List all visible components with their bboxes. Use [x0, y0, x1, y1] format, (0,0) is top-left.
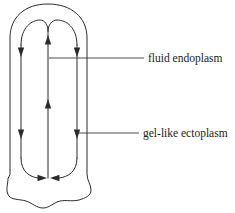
flow-arrowheads — [18, 35, 80, 181]
flow-arrow-left-down-lower-icon — [18, 130, 24, 139]
flow-bottom-right-arc — [59, 158, 77, 178]
flow-arrow-left-down-upper-icon — [18, 48, 24, 57]
label-fluid-endoplasm: fluid endoplasm — [148, 52, 222, 65]
flow-bottom-left-arc — [21, 158, 38, 178]
flow-arrow-right-down-lower-icon — [74, 130, 80, 139]
diagram-canvas: fluid endoplasm gel-like ectoplasm — [0, 0, 235, 213]
flow-arrow-center-up-middle-icon — [45, 99, 51, 108]
flow-arrow-bottom-right-inward-icon — [50, 175, 59, 181]
label-gel-like-ectoplasm: gel-like ectoplasm — [143, 127, 228, 140]
flow-arrow-center-up-upper-icon — [45, 35, 51, 44]
label-leaders — [49, 58, 144, 133]
flow-arrow-bottom-left-inward-icon — [38, 175, 47, 181]
flow-top-right-arc — [48, 20, 77, 45]
flow-top-left-arc — [21, 20, 48, 45]
flow-arrow-right-down-upper-icon — [74, 48, 80, 57]
cytoplasmic-streaming-diagram: fluid endoplasm gel-like ectoplasm — [0, 0, 235, 213]
